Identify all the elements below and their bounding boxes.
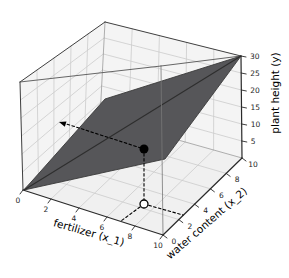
z-tick [242,124,247,125]
x-tick [104,217,107,221]
z-tick [241,90,246,91]
plot-canvas: 0246810024681051015202530fertilizer (x_1… [0,0,289,278]
z-tick-label: 5 [251,137,256,146]
y-tick-label: 8 [235,175,240,184]
y-tick-label: 10 [248,160,258,169]
z-tick [242,141,247,142]
y-tick [195,204,199,207]
3d-regression-plot: 0246810024681051015202530fertilizer (x_1… [0,0,289,278]
z-tick [241,73,246,74]
y-tick [242,158,246,161]
x-tick [160,235,163,239]
x-tick [76,208,79,212]
x-tick [48,199,51,203]
x-tick-label: 2 [44,205,49,214]
floor-projection-marker [140,200,148,208]
z-tick-label: 10 [251,120,261,129]
z-tick-label: 30 [250,52,260,61]
z-tick [242,107,247,108]
x-axis-label: fertilizer (x_1) [52,216,126,249]
y-tick-label: 6 [219,191,224,200]
y-tick [179,220,183,223]
y-tick [210,189,214,192]
y-tick [163,235,167,238]
z-tick-label: 15 [251,103,261,112]
x-tick [132,226,135,230]
z-tick [241,56,246,57]
z-tick-label: 20 [250,86,260,95]
y-tick [226,173,230,176]
z-tick-label: 25 [250,69,260,78]
x-tick-label: 8 [128,232,133,241]
data-point-marker [140,145,149,154]
z-axis-label: plant height (y) [269,52,281,133]
x-tick-label: 10 [153,241,163,250]
x-tick [20,190,23,194]
x-tick-label: 0 [16,196,21,205]
